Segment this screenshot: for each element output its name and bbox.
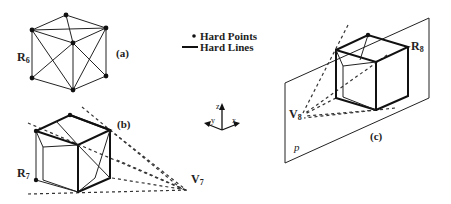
legend: Hard Points Hard Lines [182,30,258,53]
panel-c-hard-lines [336,35,408,110]
region-label-r6: R6 [17,50,30,65]
hard-point-symbol [192,34,196,38]
region-label-r7: R7 [17,166,30,181]
viewpoint-label-v7: V7 [191,172,204,187]
z-axis-label: z [216,102,220,111]
x-axis-label: x [232,116,236,125]
panel-b-caption: (b) [117,118,131,131]
panel-a-caption: (a) [116,47,129,60]
panel-c-caption: (c) [370,130,383,143]
viewpoint-label-v8: V8 [289,107,302,122]
plane-label-p: p [293,141,300,153]
panel-c-hard-points [366,33,370,37]
y-axis-label: y [211,116,215,125]
panel-c: R8 V8 (c) p [285,18,429,163]
figure-canvas: R6 (a) Hard Points Hard Lines z y x [0,0,451,204]
panel-a: R6 (a) [17,13,129,93]
region-label-r8: R8 [411,39,424,54]
panel-b: R7 (b) V7 [17,107,204,194]
legend-hard-lines-label: Hard Lines [200,41,254,53]
panel-b-hard-lines [36,115,110,192]
axes-triad: z y x [204,102,240,130]
panel-a-hard-lines [32,15,106,90]
